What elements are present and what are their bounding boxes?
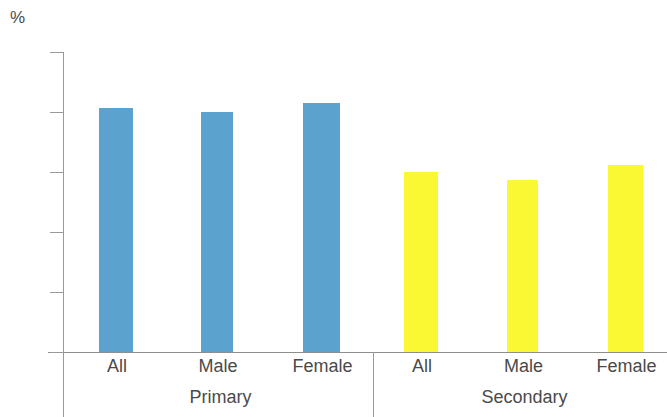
plot-area [64,52,667,352]
category-label: Male [474,357,574,377]
y-tick-mark [50,52,64,53]
y-tick-mark [50,112,64,113]
category-label: All [372,357,472,377]
y-axis-unit-label: % [10,8,25,28]
bar [404,172,438,352]
y-tick: 80 [0,112,64,113]
y-tick-mark [50,292,64,293]
y-tick-mark [50,172,64,173]
y-tick: 100 [0,52,64,53]
bar [201,112,233,352]
bar-chart: % 100806040200 AllMaleFemaleAllMaleFemal… [0,0,667,417]
y-tick-mark [50,232,64,233]
group-label: Secondary [455,388,595,408]
bar [608,165,643,353]
category-label: Female [577,357,667,377]
bar [99,108,133,353]
y-tick: 0 [0,352,64,353]
category-label-box: AllMaleFemaleAllMaleFemale PrimarySecond… [63,352,667,417]
y-tick: 20 [0,292,64,293]
bar [303,103,340,352]
y-tick-mark [50,352,64,353]
bar [507,180,538,353]
group-label: Primary [151,388,291,408]
y-tick: 40 [0,232,64,233]
category-label: Female [273,357,373,377]
category-label: Male [168,357,268,377]
y-tick: 60 [0,172,64,173]
category-label: All [67,357,167,377]
